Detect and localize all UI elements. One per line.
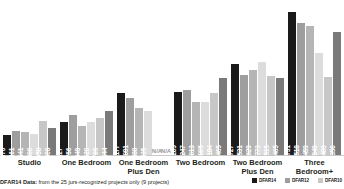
legend-item[interactable]: DFAR14 [252, 178, 276, 183]
bar[interactable]: 1,465 [219, 78, 227, 155]
bar-wrapper: 888 [135, 4, 143, 155]
bar[interactable]: 2,731 [288, 12, 296, 155]
bar[interactable]: 1,727 [231, 64, 239, 155]
bar-wrapper: 629 [87, 4, 95, 155]
bar-wrapper: 508 [48, 4, 56, 155]
bar-wrapper: 627 [60, 4, 68, 155]
x-axis-label: One BedroomPlus Den [115, 157, 172, 177]
bar[interactable]: 461 [12, 131, 20, 155]
x-axis-label-line1: Three Bedroom+ [286, 158, 343, 176]
bar-wrapper: 756 [69, 4, 77, 155]
bar[interactable]: 844 [105, 111, 113, 155]
bar[interactable]: 1,005 [201, 102, 209, 155]
bar[interactable]: 888 [135, 108, 143, 155]
bar[interactable]: 1,205 [174, 92, 182, 155]
x-axis-label: Three Bedroom+ [286, 157, 343, 177]
bar-wrapper: 549 [78, 4, 86, 155]
bar-wrapper: 1,465 [276, 4, 284, 155]
bar-group: 627756549629709844 [58, 4, 115, 155]
bar-wrapper: 441 [21, 4, 29, 155]
x-axis-label-line2: Plus Den [115, 167, 172, 176]
bar-group: 1,7271,5311,6291,7731,5151,465 [229, 4, 286, 155]
legend-label: DFAR14 [259, 178, 276, 183]
bar-wrapper: 461 [12, 4, 20, 155]
x-axis-label-line1: One Bedroom [58, 158, 115, 167]
bar-wrapper: 1,489 [324, 4, 332, 155]
bar-group: 1,2051,2471,0131,0051,1841,465 [172, 4, 229, 155]
bar-group: 376461441400658508 [1, 4, 58, 155]
bar-wrapper: 1,184 [210, 4, 218, 155]
x-axis-label: Two Bedroom [172, 157, 229, 177]
bar[interactable]: 1,247 [183, 90, 191, 155]
bar[interactable]: 2,350 [333, 32, 341, 155]
bar[interactable]: 508 [48, 128, 56, 155]
x-axis-label-line1: Two Bedroom [172, 158, 229, 167]
legend-swatch [252, 178, 257, 183]
bar[interactable]: 1,013 [192, 102, 200, 155]
chart-footnote: DFAR14 Data: from the 25 jurs-recognized… [0, 178, 169, 186]
bar-wrapper: 1,949 [315, 4, 323, 155]
bar-wrapper: 1,629 [249, 4, 257, 155]
x-axis-labels: StudioOne BedroomOne BedroomPlus DenTwo … [0, 157, 344, 177]
bar[interactable]: 629 [87, 122, 95, 155]
legend-label: DFAR10 [325, 178, 342, 183]
bar-wrapper: 1,205 [174, 4, 182, 155]
bar-wrapper: 1,247 [183, 4, 191, 155]
bar[interactable]: 835 [144, 111, 152, 155]
bar-wrapper: 1,005 [201, 4, 209, 155]
bar-wrapper: 1,515 [267, 4, 275, 155]
bar-wrapper: N/A [153, 4, 161, 155]
x-axis-label-line2: Plus Den [229, 167, 286, 176]
bar-group: 2,7312,5182,4591,9491,4892,350 [286, 4, 343, 155]
chart-legend: DFAR14DFAR12DFAR10 [252, 178, 342, 183]
bar[interactable]: 658 [39, 121, 47, 155]
bar-wrapper: 1,773 [258, 4, 266, 155]
bar[interactable]: 1,515 [267, 76, 275, 155]
bar-wrapper: 1,013 [192, 4, 200, 155]
bar-wrapper: 1,465 [219, 4, 227, 155]
bar-wrapper: 2,350 [333, 4, 341, 155]
legend-label: DFAR12 [292, 178, 309, 183]
x-axis-label: Two BedroomPlus Den [229, 157, 286, 177]
x-axis-label-line1: Two Bedroom [229, 158, 286, 167]
x-axis-label-line1: One Bedroom [115, 158, 172, 167]
x-axis-label: One Bedroom [58, 157, 115, 177]
bar-wrapper: 400 [30, 4, 38, 155]
bar[interactable]: 376 [3, 135, 11, 155]
bar[interactable]: 1,489 [324, 77, 332, 155]
footnote-rest: from the 25 jurs-recognized projects onl… [37, 179, 169, 185]
bar[interactable]: 400 [30, 134, 38, 155]
bar[interactable]: 709 [96, 118, 104, 155]
legend-item[interactable]: DFAR12 [285, 178, 309, 183]
legend-item[interactable]: DFAR10 [318, 178, 342, 183]
bar[interactable]: 441 [21, 132, 29, 155]
bar-group: 1,1771,091888835N/AN/A [115, 4, 172, 155]
bar-wrapper: 709 [96, 4, 104, 155]
bar-wrapper: 2,459 [306, 4, 314, 155]
bar-na-label: N/A [161, 148, 171, 154]
chart-plot-area: 3764614414006585086277565496297098441,17… [0, 4, 344, 156]
footnote-strong: DFAR14 Data: [0, 179, 37, 185]
bar[interactable]: 1,465 [276, 78, 284, 155]
bar-wrapper: 2,731 [288, 4, 296, 155]
bar[interactable]: 1,629 [249, 70, 257, 155]
bar[interactable]: 1,531 [240, 75, 248, 155]
bar[interactable]: 756 [69, 115, 77, 155]
bar[interactable]: 2,518 [297, 23, 305, 155]
bar[interactable]: 549 [78, 126, 86, 155]
x-axis-label: Studio [1, 157, 58, 177]
bar[interactable]: 1,949 [315, 53, 323, 155]
bar-wrapper: 1,091 [126, 4, 134, 155]
bar[interactable]: 1,184 [210, 93, 218, 155]
bar-wrapper: 1,727 [231, 4, 239, 155]
bar-wrapper: 1,177 [117, 4, 125, 155]
bar[interactable]: 1,773 [258, 62, 266, 155]
bar-wrapper: 1,531 [240, 4, 248, 155]
bar-wrapper: 658 [39, 4, 47, 155]
legend-swatch [318, 178, 323, 183]
bar[interactable]: 1,177 [117, 93, 125, 155]
bar-wrapper: N/A [162, 4, 170, 155]
bar[interactable]: 2,459 [306, 26, 314, 155]
bar[interactable]: 1,091 [126, 98, 134, 155]
bar[interactable]: 627 [60, 122, 68, 155]
